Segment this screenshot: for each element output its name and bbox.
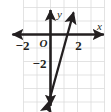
- origin-label: O: [40, 37, 48, 49]
- coordinate-plane-figure: −2 2 −2 O x y: [0, 0, 111, 112]
- y-axis-label: y: [56, 8, 62, 20]
- x-tick-label-negative-two: −2: [16, 38, 30, 53]
- x-tick-label-two: 2: [75, 38, 82, 53]
- y-tick-label-negative-two: −2: [33, 56, 47, 71]
- x-axis-label: x: [96, 20, 102, 32]
- graph-screenshot: −2 2 −2 O x y: [0, 0, 111, 112]
